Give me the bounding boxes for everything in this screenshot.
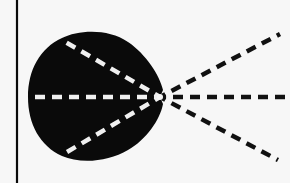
rays-outside-upper-ray bbox=[160, 34, 280, 97]
outside-rays bbox=[160, 34, 290, 160]
ray-diagram bbox=[0, 0, 290, 183]
rays-outside-lower-ray bbox=[160, 97, 278, 160]
focal-point bbox=[157, 94, 163, 100]
